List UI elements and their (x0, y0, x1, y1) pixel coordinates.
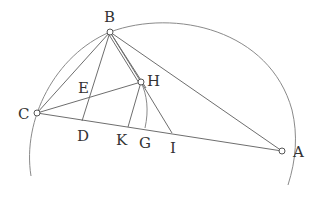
geometry-diagram: B H E C D K G I A (0, 0, 325, 207)
circumcircle-arc (30, 23, 296, 185)
label-K: K (116, 131, 128, 149)
label-B: B (104, 8, 115, 26)
label-C: C (18, 105, 29, 123)
segment-CH (37, 82, 141, 113)
label-G: G (139, 134, 151, 152)
segment-HK (128, 82, 141, 127)
segment-BC (37, 32, 110, 113)
label-H: H (147, 72, 160, 90)
segment-CA (37, 113, 282, 151)
label-D: D (77, 127, 89, 145)
label-I: I (170, 139, 176, 157)
label-E: E (78, 79, 89, 97)
point-C (34, 110, 40, 116)
label-A: A (292, 143, 304, 161)
point-H (138, 79, 144, 85)
point-B (107, 29, 113, 35)
point-A (279, 148, 285, 154)
segment-BA (110, 32, 282, 151)
segment-BH-2 (108, 33, 139, 83)
